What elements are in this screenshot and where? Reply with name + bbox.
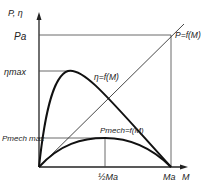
x-axis-label: M <box>182 172 190 182</box>
y-axis-label: P, η <box>8 8 23 18</box>
efficiency-power-diagram: P, η Pa ηmax Pmech max ½Ma Ma M P=f(M) η… <box>0 0 213 190</box>
p-curve-label: P=f(M) <box>175 30 201 40</box>
p-curve <box>39 24 184 167</box>
pmech-curve-label: Pmech=f(M) <box>100 126 144 135</box>
pmech-max-label: Pmech max <box>2 134 45 143</box>
pa-label: Pa <box>14 31 27 42</box>
ma-label: Ma <box>163 172 176 182</box>
eta-max-label: ηmax <box>4 67 26 77</box>
half-ma-label: ½Ma <box>98 172 118 182</box>
y-axis-arrow-icon <box>37 12 42 20</box>
eta-curve-label: η=f(M) <box>94 72 119 82</box>
x-axis-arrow-icon <box>180 165 188 170</box>
